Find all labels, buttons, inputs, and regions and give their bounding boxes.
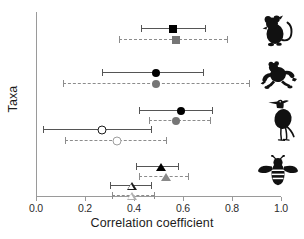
interval-row [0, 78, 304, 89]
ci-cap-high [249, 80, 250, 87]
interval-row [0, 23, 304, 34]
ci-cap-low [139, 173, 140, 180]
x-axis-title: Correlation coefficient [0, 216, 304, 230]
x-tick-label-3: 0.6 [168, 202, 198, 214]
ci-cap-high [205, 25, 206, 32]
ci-cap-high [227, 36, 228, 43]
ci-cap-high [154, 192, 155, 199]
forest-plot-figure: 0.0 0.2 0.4 0.6 0.8 1.0 Correlation coef… [0, 0, 304, 239]
ci-cap-high [151, 126, 152, 133]
ci-cap-low [102, 69, 103, 76]
ci-cap-high [203, 69, 204, 76]
ci-cap-low [141, 25, 142, 32]
ci-cap-low [136, 163, 137, 170]
ci-cap-high [151, 182, 152, 189]
ci-cap-high [212, 107, 213, 114]
rodent-icon [262, 14, 298, 48]
x-tick-label-5: 1.0 [266, 202, 296, 214]
point-estimate-marker [127, 182, 137, 190]
point-estimate-marker [177, 107, 185, 115]
ci-cap-low [65, 137, 66, 144]
interval-row [0, 67, 304, 78]
ci-cap-low [110, 182, 111, 189]
ci-cap-low [139, 107, 140, 114]
point-estimate-marker [112, 136, 121, 145]
interval-row [0, 190, 304, 201]
x-tick-label-1: 0.2 [70, 202, 100, 214]
point-estimate-marker [127, 192, 137, 200]
x-tick-label-4: 0.8 [217, 202, 247, 214]
interval-row [0, 135, 304, 146]
frog-icon [260, 60, 298, 90]
ci-cap-high [188, 173, 189, 180]
interval-row [0, 124, 304, 135]
point-estimate-marker [169, 25, 177, 33]
interval-row [0, 34, 304, 45]
bee-icon [258, 155, 298, 187]
point-estimate-marker [156, 163, 166, 171]
ci-cap-low [119, 36, 120, 43]
heron-icon [264, 99, 298, 143]
x-tick-label-0: 0.0 [21, 202, 51, 214]
x-tick-label-2: 0.4 [119, 202, 149, 214]
point-estimate-marker [98, 125, 107, 134]
point-estimate-marker [172, 36, 180, 44]
point-estimate-marker [152, 69, 160, 77]
ci-cap-low [43, 126, 44, 133]
ci-cap-low [112, 192, 113, 199]
ci-cap-low [149, 117, 150, 124]
ci-cap-low [63, 80, 64, 87]
point-estimate-marker [152, 80, 160, 88]
ci-cap-high [178, 163, 179, 170]
ci-cap-high [166, 137, 167, 144]
ci-cap-high [210, 117, 211, 124]
